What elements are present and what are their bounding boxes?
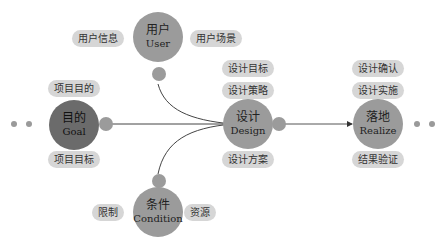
condition-node[interactable]: 条件 Condition bbox=[133, 187, 183, 237]
user-connector-knob bbox=[152, 67, 166, 81]
tag-user-info: 用户信息 bbox=[72, 30, 124, 47]
user-node-en: User bbox=[146, 38, 170, 51]
condition-node-en: Condition bbox=[133, 213, 182, 226]
tag-project-target: 项目目标 bbox=[48, 151, 100, 168]
goal-node-zh: 目的 bbox=[62, 111, 86, 126]
ellipsis-dot-right-2 bbox=[429, 121, 435, 127]
condition-node-zh: 条件 bbox=[146, 198, 170, 213]
realize-node-en: Realize bbox=[360, 125, 397, 138]
tag-design-confirm: 设计确认 bbox=[352, 60, 404, 77]
user-node[interactable]: 用户 User bbox=[133, 12, 183, 62]
goal-node-en: Goal bbox=[62, 126, 85, 139]
tag-design-plan: 设计方案 bbox=[222, 151, 274, 168]
tag-design-goal: 设计目标 bbox=[222, 60, 274, 77]
realize-node-zh: 落地 bbox=[366, 110, 390, 125]
tag-project-purpose: 项目目的 bbox=[48, 80, 100, 97]
tag-user-scenario: 用户场景 bbox=[190, 30, 242, 47]
design-connector-knob bbox=[272, 117, 286, 131]
ellipsis-dot-left-2 bbox=[26, 121, 32, 127]
tag-result-verify: 结果验证 bbox=[352, 151, 404, 168]
ellipsis-dot-right-1 bbox=[414, 121, 420, 127]
tag-design-implement: 设计实施 bbox=[352, 82, 404, 99]
goal-node[interactable]: 目的 Goal bbox=[49, 100, 99, 150]
ellipsis-dot-left-1 bbox=[11, 121, 17, 127]
tag-resource: 资源 bbox=[184, 204, 216, 221]
design-node-en: Design bbox=[230, 125, 265, 138]
design-node-zh: 设计 bbox=[236, 110, 260, 125]
condition-connector-knob bbox=[152, 174, 166, 188]
realize-node[interactable]: 落地 Realize bbox=[353, 99, 403, 149]
tag-constraint: 限制 bbox=[92, 204, 124, 221]
user-node-zh: 用户 bbox=[146, 23, 170, 38]
tag-design-strategy: 设计策略 bbox=[222, 82, 274, 99]
goal-connector-knob bbox=[99, 117, 113, 131]
design-node[interactable]: 设计 Design bbox=[223, 99, 273, 149]
